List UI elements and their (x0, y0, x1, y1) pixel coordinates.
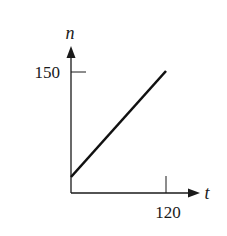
x-tick-label-120: 120 (155, 203, 181, 222)
x-axis-label: t (204, 183, 210, 203)
y-axis-label: n (66, 23, 75, 43)
chart-canvas: n t 150 120 (0, 0, 227, 236)
data-line (71, 71, 166, 177)
y-axis-arrow-icon (67, 46, 76, 58)
y-tick-label-150: 150 (35, 63, 61, 82)
x-axis-arrow-icon (188, 189, 200, 198)
